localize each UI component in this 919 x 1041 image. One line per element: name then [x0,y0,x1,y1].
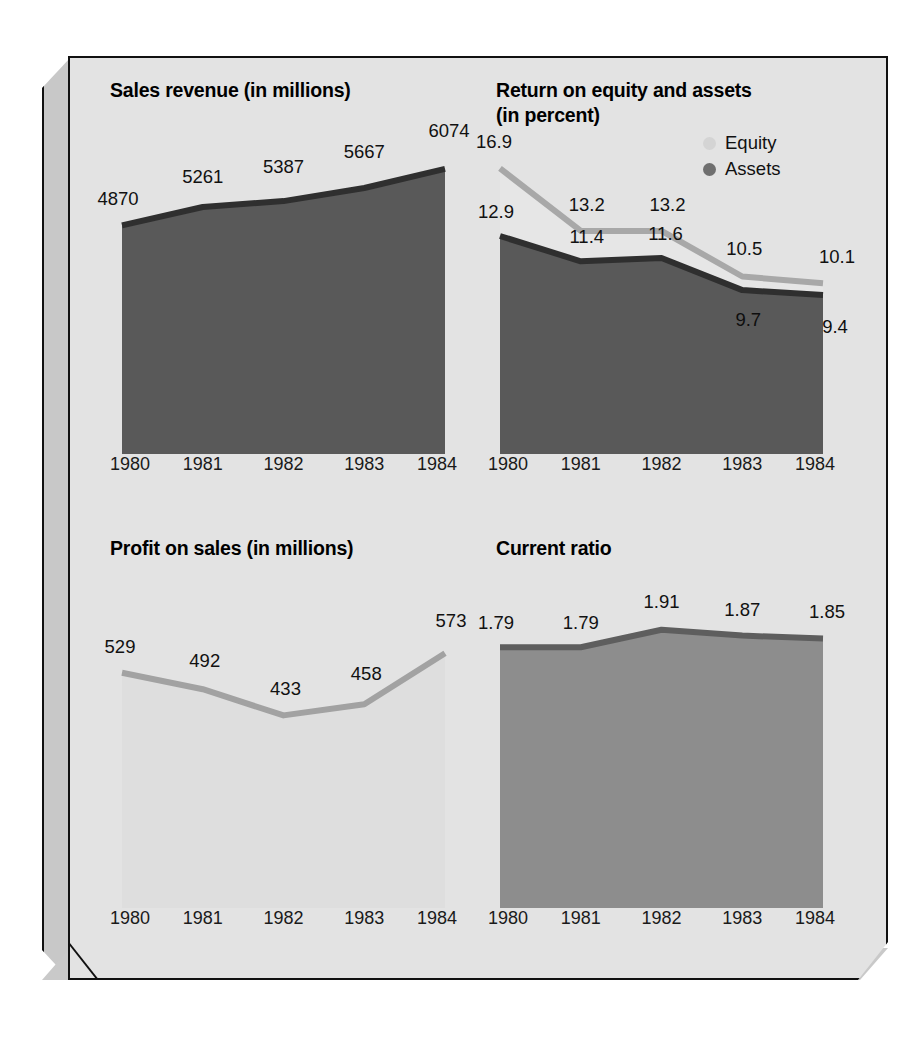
data-label-assets: 11.4 [569,226,604,248]
x-tick-label: 1982 [641,908,681,929]
chart-title-sales-revenue: Sales revenue (in millions) [110,78,351,103]
data-label-assets: 9.4 [822,316,848,338]
chart-return-equity-assets: Return on equity and assets (in percent)… [478,56,888,518]
data-label: 4870 [97,188,138,210]
data-label: 5667 [344,141,385,163]
x-tick-label: 1984 [795,908,835,929]
x-tick-label: 1983 [722,454,762,475]
data-label: 492 [189,650,220,672]
data-label: 458 [351,663,382,685]
data-label: 529 [105,636,136,658]
data-label-assets: 9.7 [735,309,761,331]
data-label: 1.79 [563,612,599,634]
charts-container: Sales revenue (in millions) 487052615387… [68,56,888,980]
area-fill-assets [500,236,823,454]
chart-profit-on-sales: Profit on sales (in millions) 5294924334… [68,518,478,980]
data-label-assets: 11.6 [648,223,683,245]
plot-area-current-ratio: 1.791.791.911.871.85 [478,570,888,910]
data-label: 5261 [182,166,223,188]
data-label: 1.87 [724,599,760,621]
data-label-equity: 10.5 [726,238,762,260]
x-tick-label: 1980 [110,908,150,929]
data-label: 1.79 [478,612,514,634]
x-tick-label: 1982 [641,454,681,475]
x-axis-profit-on-sales: 19801981198219831984 [68,908,478,938]
x-tick-label: 1982 [263,454,303,475]
chart-title-profit-on-sales: Profit on sales (in millions) [110,536,353,561]
data-label-equity: 16.9 [476,131,512,153]
x-axis-current-ratio: 19801981198219831984 [478,908,888,938]
area-series [68,570,478,910]
data-label-assets: 12.9 [478,201,514,223]
x-tick-label: 1981 [183,908,223,929]
x-tick-label: 1981 [561,908,601,929]
data-label: 433 [270,678,301,700]
x-tick-label: 1982 [263,908,303,929]
x-tick-label: 1983 [344,454,384,475]
plot-area-return-equity-assets: 16.913.213.210.510.112.911.411.69.79.4 [478,116,888,456]
x-tick-label: 1984 [417,454,457,475]
chart-sales-revenue: Sales revenue (in millions) 487052615387… [68,56,478,518]
area-series-group [478,116,888,456]
x-tick-label: 1980 [110,454,150,475]
data-label-equity: 10.1 [819,246,855,268]
x-tick-label: 1983 [722,908,762,929]
chart-current-ratio: Current ratio 1.791.791.911.871.85 19801… [478,518,888,980]
x-axis-return-equity-assets: 19801981198219831984 [478,454,888,484]
x-tick-label: 1981 [183,454,223,475]
data-label: 573 [436,610,467,632]
x-axis-sales-revenue: 19801981198219831984 [68,454,478,484]
x-tick-label: 1981 [561,454,601,475]
data-label: 6074 [428,120,469,142]
area-fill [500,630,823,908]
data-label-equity: 13.2 [649,194,685,216]
x-tick-label: 1984 [417,908,457,929]
x-tick-label: 1980 [488,908,528,929]
x-tick-label: 1984 [795,454,835,475]
plot-area-profit-on-sales: 529492433458573 [68,570,478,910]
chart-title-current-ratio: Current ratio [496,536,612,561]
figure-root: Sales revenue (in millions) 487052615387… [0,0,919,1041]
data-label: 1.85 [809,601,845,623]
x-tick-label: 1980 [488,454,528,475]
x-tick-label: 1983 [344,908,384,929]
plot-area-sales-revenue: 48705261538756676074 [68,116,478,456]
data-label: 1.91 [643,591,679,613]
data-label: 5387 [263,156,304,178]
data-label-equity: 13.2 [569,194,605,216]
